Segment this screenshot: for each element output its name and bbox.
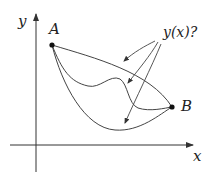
y-axis-label: y xyxy=(17,12,27,30)
point-b xyxy=(169,104,174,109)
point-a-label: A xyxy=(47,20,60,38)
wavy-curve xyxy=(52,45,172,110)
point-b-label: B xyxy=(180,97,192,115)
arrow-to-wavy-curve xyxy=(128,42,158,83)
pointer-arrows xyxy=(124,41,161,123)
x-axis-label: x xyxy=(193,147,202,165)
arrow-to-upper-curve xyxy=(124,41,155,61)
question-label: y(x)? xyxy=(162,24,198,40)
point-a xyxy=(49,42,54,47)
diagram-canvas: y x A B y(x)? xyxy=(0,0,217,174)
candidate-curves xyxy=(52,45,172,130)
